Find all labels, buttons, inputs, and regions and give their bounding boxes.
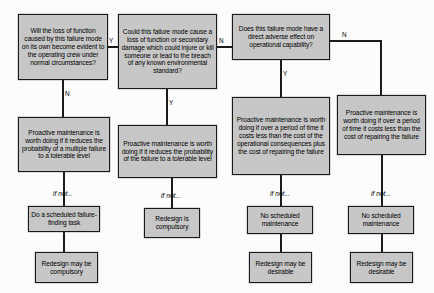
if-not-label-col3: if not... <box>261 190 299 198</box>
decision-text-hidden-failure: Will the loss of function caused by this… <box>21 27 105 67</box>
decision-text-operational: Does this failure mode have a direct adv… <box>235 25 327 49</box>
connector-action1-down <box>63 232 65 252</box>
action-box-redesign-compulsory[interactable]: Redesign is compulsory <box>144 208 200 238</box>
action-text-no-scheduled-maintenance-operational: No scheduled maintenance <box>250 212 310 228</box>
action-box-failure-finding-task[interactable]: Do a scheduled failure-finding task <box>28 206 100 232</box>
connector-policy1-down <box>63 172 65 206</box>
decision-box-safety-environmental[interactable]: Could this failure mode cause a loss of … <box>118 14 217 89</box>
policy-box-non-operational[interactable]: Proactive maintenance is worth doing if … <box>337 95 426 155</box>
policy-text-safety-environmental: Proactive maintenance is worth doing if … <box>121 140 214 164</box>
connector-q1-down <box>62 80 64 117</box>
flowchart-canvas: Will the loss of function caused by this… <box>0 0 434 293</box>
connector-action4-down <box>381 234 383 252</box>
action-box-no-scheduled-maintenance-non-operational[interactable]: No scheduled maintenance <box>348 206 414 234</box>
decision-text-safety-environmental: Could this failure mode cause a loss of … <box>121 28 214 75</box>
edge-label-q3-down: Y <box>283 70 287 78</box>
connector-q2-down <box>166 89 168 125</box>
if-not-label-col1: if not... <box>44 190 82 198</box>
policy-box-operational[interactable]: Proactive maintenance is worth doing if … <box>232 97 330 175</box>
if-not-label-col2: if not... <box>152 192 190 200</box>
action-text-failure-finding-task: Do a scheduled failure-finding task <box>31 211 97 227</box>
action-text-redesign-compulsory: Redesign is compulsory <box>147 215 197 231</box>
connector-q2-to-q3 <box>217 46 232 48</box>
decision-box-operational[interactable]: Does this failure mode have a direct adv… <box>232 14 330 60</box>
edge-label-q1-to-q2: Y <box>109 37 113 45</box>
decision-box-hidden-failure[interactable]: Will the loss of function caused by this… <box>18 14 108 80</box>
action-box-no-scheduled-maintenance-operational[interactable]: No scheduled maintenance <box>247 206 313 234</box>
outcome-text-redesign-desirable-operational: Redesign may be desirable <box>252 260 309 276</box>
edge-label-q1-down: N <box>65 90 70 98</box>
edge-label-q3-right: N <box>342 31 347 39</box>
connector-action3-down <box>280 234 282 252</box>
connector-col4-down <box>380 40 382 95</box>
edge-label-q2-to-q3: N <box>219 37 224 45</box>
policy-text-operational: Proactive maintenance is worth doing if … <box>235 116 327 156</box>
connector-q1-to-q2 <box>108 46 118 48</box>
policy-text-hidden-failure: Proactive maintenance is worth doing if … <box>21 129 107 161</box>
policy-box-safety-environmental[interactable]: Proactive maintenance is worth doing if … <box>118 125 217 178</box>
policy-text-non-operational: Proactive maintenance is worth doing if … <box>340 109 423 141</box>
policy-box-hidden-failure[interactable]: Proactive maintenance is worth doing if … <box>18 117 110 172</box>
outcome-box-redesign-compulsory[interactable]: Redesign may be compulsory <box>35 252 98 283</box>
outcome-box-redesign-desirable-operational[interactable]: Redesign may be desirable <box>249 252 312 283</box>
outcome-text-redesign-desirable-non-operational: Redesign may be desirable <box>353 260 410 276</box>
action-text-no-scheduled-maintenance-non-operational: No scheduled maintenance <box>351 212 411 228</box>
outcome-text-redesign-compulsory: Redesign may be compulsory <box>38 260 95 276</box>
if-not-label-col4: if not... <box>362 190 400 198</box>
connector-q3-to-col4 <box>330 40 381 42</box>
connector-policy4-down <box>381 155 383 206</box>
connector-q3-down <box>280 60 282 97</box>
edge-label-q2-down: Y <box>169 99 173 107</box>
outcome-box-redesign-desirable-non-operational[interactable]: Redesign may be desirable <box>350 252 413 283</box>
